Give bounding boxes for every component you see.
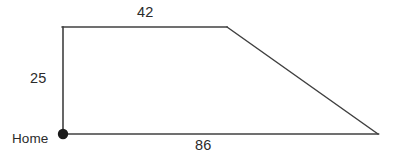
home-point-dot [58,129,68,139]
slanted-side-line [227,27,378,134]
geometry-figure: 42 25 86 Home [0,0,402,159]
home-point-label: Home [12,132,48,146]
bottom-side-length-label: 86 [195,138,211,153]
left-side-length-label: 25 [30,71,46,86]
top-side-length-label: 42 [137,5,153,20]
shape-drawing [0,0,402,159]
